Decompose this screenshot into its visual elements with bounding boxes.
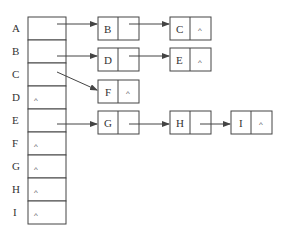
head-cell-c: [28, 63, 66, 86]
head-row-i: I ^: [13, 201, 66, 224]
head-row-e: E: [12, 109, 66, 132]
head-row-d: D ^: [12, 86, 66, 109]
node-i-label: I: [239, 117, 243, 129]
node-f-label: F: [105, 86, 111, 98]
row-label-f: F: [12, 137, 18, 149]
node-d-label: D: [104, 54, 112, 66]
row-label-e: E: [12, 114, 19, 126]
row-label-a: A: [12, 22, 20, 34]
row-label-h: H: [12, 183, 20, 195]
null-pointer-icon: ^: [34, 96, 38, 105]
node-h-label: H: [176, 117, 184, 129]
head-row-b: B: [12, 40, 66, 63]
head-row-h: H ^: [12, 178, 66, 201]
head-row-c: C: [12, 63, 66, 86]
node-g: G: [98, 111, 139, 134]
row-label-d: D: [12, 91, 20, 103]
null-pointer-icon: ^: [198, 58, 202, 67]
node-c-label: C: [176, 23, 183, 35]
node-f: F ^: [98, 80, 139, 103]
null-pointer-icon: ^: [34, 188, 38, 197]
null-pointer-icon: ^: [34, 165, 38, 174]
row-label-i: I: [13, 206, 17, 218]
head-row-a: A: [12, 17, 66, 40]
adjacency-list-diagram: A B C D ^ E F ^ G ^ H: [0, 0, 285, 237]
null-pointer-icon: ^: [259, 120, 263, 129]
head-cell-e: [28, 109, 66, 132]
node-b: B: [98, 17, 139, 40]
node-b-label: B: [104, 23, 111, 35]
node-d: D: [98, 48, 139, 71]
head-row-g: G ^: [12, 155, 66, 178]
null-pointer-icon: ^: [126, 89, 130, 98]
head-row-f: F ^: [12, 132, 66, 155]
null-pointer-icon: ^: [198, 26, 202, 35]
null-pointer-icon: ^: [34, 142, 38, 151]
head-cell-a: [28, 17, 66, 40]
node-i: I ^: [231, 111, 272, 134]
null-pointer-icon: ^: [34, 211, 38, 220]
head-table: A B C D ^ E F ^ G ^ H: [12, 17, 66, 224]
node-e-label: E: [176, 54, 183, 66]
row-label-b: B: [12, 45, 19, 57]
node-h: H: [170, 111, 211, 134]
row-label-g: G: [12, 160, 20, 172]
node-e: E ^: [170, 48, 211, 71]
node-c: C ^: [170, 17, 211, 40]
node-g-label: G: [104, 117, 112, 129]
row-label-c: C: [12, 68, 19, 80]
head-cell-b: [28, 40, 66, 63]
